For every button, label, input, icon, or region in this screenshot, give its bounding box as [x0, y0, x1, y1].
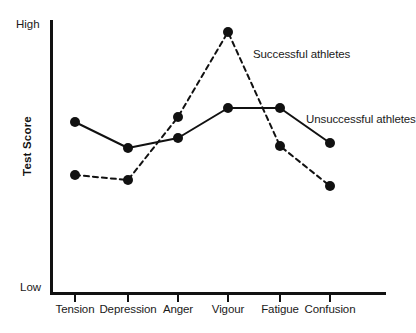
data-point: [275, 103, 285, 113]
data-point: [123, 143, 133, 153]
mood-profile-chart: High Low Test Score Tension Depression A…: [0, 0, 416, 333]
data-point: [223, 27, 233, 37]
data-point: [173, 112, 183, 122]
series-label-successful-athletes: Successful athletes: [253, 48, 350, 60]
data-point: [123, 175, 133, 185]
plot-area: [0, 0, 416, 333]
data-point: [275, 141, 285, 151]
data-point: [70, 117, 80, 127]
data-point: [70, 170, 80, 180]
data-point: [223, 103, 233, 113]
series-label-unsuccessful-athletes: Unsuccessful athletes: [306, 113, 416, 125]
series-unsuccessful-athletes: [70, 103, 335, 153]
series-line-solid: [75, 108, 330, 148]
data-point: [325, 138, 335, 148]
data-point: [325, 181, 335, 191]
data-point: [173, 133, 183, 143]
